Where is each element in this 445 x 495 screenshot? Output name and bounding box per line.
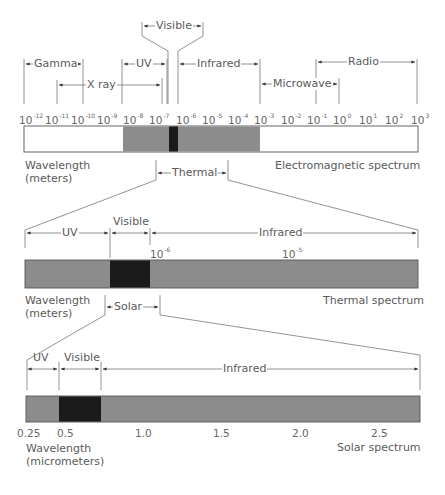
tick-label: 10-8	[123, 110, 143, 126]
axis-label-line1: Wavelength	[26, 442, 104, 455]
thermal-spectrum-title: Thermal spectrum	[323, 294, 424, 307]
axis-label-line1: Wavelength	[25, 294, 90, 307]
band-label-infrared: Infrared	[196, 58, 241, 70]
tick-label: 10-4	[228, 110, 248, 126]
tick-label: 103	[411, 110, 429, 126]
solar-band-infrared: Infrared	[222, 363, 267, 375]
thermal-band-visible: Visible	[113, 215, 149, 228]
tick-label: 10-5	[202, 110, 222, 126]
tick-label: 10-7	[149, 110, 169, 126]
tick-label: 10-11	[45, 110, 69, 126]
tick-label: 10-9	[97, 110, 117, 126]
thermal-zoom-label: Thermal	[171, 167, 218, 179]
tick-label: 10-10	[71, 110, 95, 126]
em-spectrum-title: Electromagnetic spectrum	[275, 159, 420, 172]
thermal-band-uv: UV	[61, 227, 79, 239]
thermal-band-infrared: Infrared	[258, 227, 303, 239]
axis-label-line2: (meters)	[25, 172, 90, 185]
solar-zoom-label: Solar	[113, 301, 143, 313]
band-label-microwave: Microwave	[272, 78, 333, 90]
solar-axis-label: Wavelength (micrometers)	[26, 442, 104, 468]
axis-label-line2: (meters)	[25, 307, 90, 320]
em-spectrum-bar	[24, 126, 418, 152]
tick-label: 101	[359, 110, 377, 126]
band-label-gamma: Gamma	[33, 58, 78, 70]
tick-label: 2.5	[371, 427, 388, 439]
thermal-spectrum-bar	[25, 260, 418, 288]
tick-label: 10-1	[307, 110, 327, 126]
tick-label: 1.0	[135, 427, 152, 439]
tick-label: 10-3	[254, 110, 274, 126]
axis-label-line2: (micrometers)	[26, 455, 104, 468]
solar-spectrum-title: Solar spectrum	[337, 441, 421, 454]
tick-label: 10-6	[176, 110, 196, 126]
band-label-xray: X ray	[86, 79, 117, 91]
band-label-radio: Radio	[347, 56, 380, 68]
diagram-lines	[0, 0, 445, 495]
solar-band-uv: UV	[33, 351, 49, 364]
tick-label: 0.25	[17, 427, 40, 439]
thermal-tick-label: 10-5	[282, 244, 302, 260]
tick-label: 10-12	[19, 110, 43, 126]
thermal-tick-label: 10-6	[150, 244, 170, 260]
band-label-visible: Visible	[155, 20, 193, 32]
band-label-uv: UV	[135, 58, 153, 70]
solar-spectrum-bar	[26, 396, 420, 422]
solar-band-visible: Visible	[64, 351, 100, 364]
em-axis-label: Wavelength (meters)	[25, 159, 90, 185]
tick-label: 0.5	[57, 427, 74, 439]
tick-label: 100	[333, 110, 351, 126]
tick-label: 10-2	[281, 110, 301, 126]
tick-label: 102	[385, 110, 403, 126]
axis-label-line1: Wavelength	[25, 159, 90, 172]
thermal-axis-label: Wavelength (meters)	[25, 294, 90, 320]
tick-label: 1.5	[213, 427, 230, 439]
tick-label: 2.0	[292, 427, 309, 439]
